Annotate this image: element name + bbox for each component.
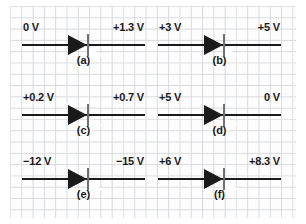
- wire-with-diode: [158, 169, 281, 189]
- diode-triangle: [68, 169, 87, 189]
- circuit-d: +5 V 0 V (d): [158, 88, 281, 140]
- circuit-caption: (e): [22, 188, 145, 201]
- left-voltage-label: 0 V: [22, 22, 39, 33]
- diode-icon: [68, 105, 96, 125]
- diode-triangle: [68, 105, 87, 125]
- voltage-labels: +5 V 0 V: [158, 88, 281, 103]
- diode-cathode-bar: [223, 34, 225, 56]
- circuit-f: +6 V +8.3 V (f): [158, 152, 281, 204]
- left-voltage-label: +6 V: [158, 156, 181, 167]
- voltage-labels: 0 V +1.3 V: [22, 18, 145, 33]
- circuit-b: +3 V +5 V (b): [158, 18, 281, 70]
- diode-icon: [68, 169, 96, 189]
- diode-triangle: [204, 35, 223, 55]
- circuit-e: −12 V −15 V (e): [22, 152, 145, 204]
- left-voltage-label: −12 V: [22, 156, 51, 167]
- left-voltage-label: +0.2 V: [22, 92, 54, 103]
- diode-icon: [204, 105, 232, 125]
- voltage-labels: −12 V −15 V: [22, 152, 145, 167]
- wire-with-diode: [22, 105, 145, 125]
- diode-cathode-bar: [87, 104, 89, 126]
- right-voltage-label: 0 V: [264, 92, 281, 103]
- diode-cathode-bar: [87, 168, 89, 190]
- right-voltage-label: +0.7 V: [113, 92, 145, 103]
- diode-cathode-bar: [223, 104, 225, 126]
- circuit-c: +0.2 V +0.7 V (c): [22, 88, 145, 140]
- left-voltage-label: +3 V: [158, 22, 181, 33]
- diode-icon: [68, 35, 96, 55]
- diode-triangle: [68, 35, 87, 55]
- left-voltage-label: +5 V: [158, 92, 181, 103]
- diode-triangle: [204, 105, 223, 125]
- voltage-labels: +6 V +8.3 V: [158, 152, 281, 167]
- figure-canvas: 0 V +1.3 V (a) +3 V +5 V: [0, 0, 306, 224]
- wire-with-diode: [22, 35, 145, 55]
- circuit-caption: (d): [158, 124, 281, 137]
- diode-cathode-bar: [223, 168, 225, 190]
- diode-triangle: [204, 169, 223, 189]
- circuit-caption: (c): [22, 124, 145, 137]
- circuit-caption: (a): [22, 54, 145, 67]
- circuit-a: 0 V +1.3 V (a): [22, 18, 145, 70]
- diode-icon: [204, 35, 232, 55]
- right-voltage-label: +5 V: [258, 22, 281, 33]
- diode-cathode-bar: [87, 34, 89, 56]
- wire-with-diode: [158, 105, 281, 125]
- right-voltage-label: −15 V: [116, 156, 145, 167]
- right-voltage-label: +1.3 V: [113, 22, 145, 33]
- right-voltage-label: +8.3 V: [249, 156, 281, 167]
- circuit-caption: (b): [158, 54, 281, 67]
- wire-with-diode: [158, 35, 281, 55]
- voltage-labels: +0.2 V +0.7 V: [22, 88, 145, 103]
- wire-with-diode: [22, 169, 145, 189]
- diode-icon: [204, 169, 232, 189]
- voltage-labels: +3 V +5 V: [158, 18, 281, 33]
- circuit-caption: (f): [158, 188, 281, 201]
